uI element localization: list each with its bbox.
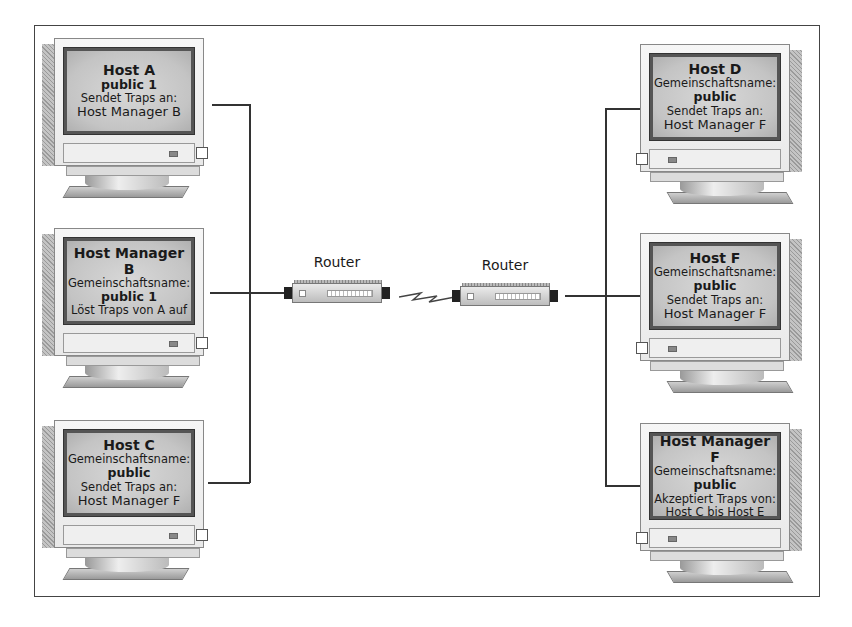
monitor-screen: Host FGemeinschaftsname:publicSendet Tra…	[649, 242, 781, 330]
monitor-bezel	[63, 143, 195, 163]
monitor-neck	[650, 551, 784, 561]
screen-content: Host Manager FGemeinschaftsname:publicAk…	[653, 436, 777, 516]
monitor-bezel	[649, 528, 781, 548]
router-icon	[460, 286, 550, 306]
host-info-line: Host C bis Host E	[666, 506, 765, 519]
lightning-bolt-icon	[399, 285, 455, 305]
host-title: Host F	[690, 250, 741, 266]
router-port-icon	[452, 290, 460, 302]
router-port-icon	[382, 287, 390, 299]
left-bus-vertical	[249, 104, 251, 483]
power-button-icon[interactable]	[196, 337, 208, 349]
power-led-icon	[668, 346, 677, 352]
power-button-icon[interactable]	[636, 153, 648, 165]
monitor-stand	[680, 371, 764, 385]
router-label: Router	[284, 254, 390, 270]
screen-content: Host Manager BGemeinschaftsname:public 1…	[67, 241, 191, 321]
router-port-icon	[550, 290, 558, 302]
monitor-bezel	[649, 149, 781, 169]
host-info-line: Sendet Traps an:	[667, 294, 763, 307]
host-info-line: public	[108, 466, 151, 480]
monitor-stand	[680, 182, 764, 196]
monitor-neck	[66, 166, 200, 176]
power-led-icon	[668, 536, 677, 542]
host-title: Host A	[103, 62, 155, 78]
screen-content: Host FGemeinschaftsname:publicSendet Tra…	[653, 246, 777, 326]
monitor-neck	[66, 356, 200, 366]
host-title: Host D	[689, 61, 742, 77]
power-lamp-icon	[467, 293, 474, 300]
power-button-icon[interactable]	[636, 342, 648, 354]
host-info-line: Gemeinschaftsname:	[68, 277, 190, 290]
host-info-line: public 1	[101, 290, 157, 304]
monitor-neck	[650, 172, 784, 182]
router-port-icon	[284, 287, 292, 299]
power-led-icon	[169, 151, 178, 157]
router-left[interactable]: Router	[284, 280, 390, 306]
host-info-line: Sendet Traps an:	[81, 481, 177, 494]
host-f-link	[565, 295, 645, 297]
power-led-icon	[668, 157, 677, 163]
host-title: Host Manager B	[67, 245, 191, 277]
monitor-stand	[85, 366, 169, 380]
monitor-side	[790, 239, 802, 361]
host-info-line: Host Manager F	[664, 307, 766, 322]
monitor-host-d[interactable]: Host DGemeinschaftsname:publicSendet Tra…	[640, 36, 810, 216]
monitor-screen: Host Manager BGemeinschaftsname:public 1…	[63, 237, 195, 325]
host-info-line: Akzeptiert Traps von:	[654, 493, 776, 506]
router-icon	[292, 283, 382, 303]
monitor-screen: Host DGemeinschaftsname:publicSendet Tra…	[649, 53, 781, 141]
monitor-side	[790, 50, 802, 172]
monitor-host-a[interactable]: Host Apublic 1Sendet Traps an:Host Manag…	[40, 30, 210, 210]
right-bus-vertical	[605, 108, 607, 486]
host-c-link	[208, 482, 250, 484]
host-info-line: Löst Traps von A auf	[71, 304, 187, 317]
power-lamp-icon	[299, 290, 306, 297]
monitor-side	[42, 44, 54, 166]
power-button-icon[interactable]	[196, 147, 208, 159]
host-info-line: public	[694, 90, 737, 104]
power-button-icon[interactable]	[636, 532, 648, 544]
status-leds-icon	[327, 290, 373, 297]
router-label: Router	[452, 257, 558, 273]
host-a-link	[212, 104, 250, 106]
monitor-bezel	[63, 333, 195, 353]
monitor-icon: Host Manager BGemeinschaftsname:public 1…	[54, 228, 204, 356]
monitor-bezel	[63, 525, 195, 545]
monitor-stand	[85, 176, 169, 190]
monitor-icon: Host DGemeinschaftsname:publicSendet Tra…	[640, 44, 790, 172]
host-manager-f-link	[605, 485, 645, 487]
host-title: Host Manager F	[653, 433, 777, 465]
host-info-line: Host Manager F	[664, 118, 766, 133]
monitor-host-manager-f[interactable]: Host Manager FGemeinschaftsname:publicAk…	[640, 415, 810, 595]
status-leds-icon	[495, 293, 541, 300]
monitor-screen: Host Apublic 1Sendet Traps an:Host Manag…	[63, 47, 195, 135]
screen-content: Host DGemeinschaftsname:publicSendet Tra…	[653, 57, 777, 137]
host-info-line: public 1	[101, 78, 157, 92]
router-right[interactable]: Router	[452, 283, 558, 309]
monitor-icon: Host CGemeinschaftsname:publicSendet Tra…	[54, 420, 204, 548]
monitor-icon: Host Apublic 1Sendet Traps an:Host Manag…	[54, 38, 204, 166]
screen-content: Host CGemeinschaftsname:publicSendet Tra…	[67, 433, 191, 513]
monitor-neck	[66, 548, 200, 558]
monitor-host-f[interactable]: Host FGemeinschaftsname:publicSendet Tra…	[640, 225, 810, 405]
host-info-line: public	[694, 478, 737, 492]
host-manager-b-link	[210, 292, 290, 294]
power-led-icon	[169, 341, 178, 347]
monitor-host-manager-b[interactable]: Host Manager BGemeinschaftsname:public 1…	[40, 220, 210, 400]
monitor-side	[42, 426, 54, 548]
monitor-icon: Host Manager FGemeinschaftsname:publicAk…	[640, 423, 790, 551]
monitor-stand	[85, 558, 169, 572]
host-info-line: public	[694, 279, 737, 293]
host-info-line: Host Manager B	[77, 105, 181, 120]
power-button-icon[interactable]	[196, 529, 208, 541]
monitor-host-c[interactable]: Host CGemeinschaftsname:publicSendet Tra…	[40, 412, 210, 592]
host-info-line: Host Manager F	[78, 494, 180, 509]
host-title: Host C	[103, 437, 155, 453]
screen-content: Host Apublic 1Sendet Traps an:Host Manag…	[67, 51, 191, 131]
host-info-line: Sendet Traps an:	[667, 105, 763, 118]
power-led-icon	[169, 533, 178, 539]
monitor-side	[42, 234, 54, 356]
monitor-bezel	[649, 338, 781, 358]
monitor-side	[790, 429, 802, 551]
